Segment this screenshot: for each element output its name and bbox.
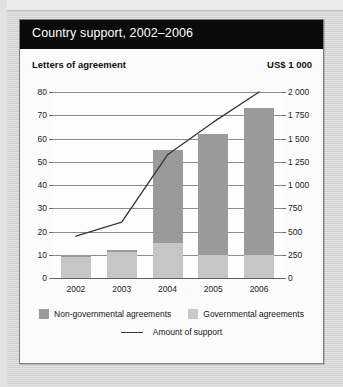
y-axis-tick-left-80: 80: [38, 88, 47, 97]
y-axis-tick-right-1500: 1 500: [288, 135, 309, 144]
left-axis-caption: Letters of agreement: [32, 59, 126, 70]
page-title: Country support, 2002–2006: [32, 26, 193, 40]
page-top-edge: [0, 0, 343, 11]
x-axis-label-2002: 2002: [53, 284, 99, 294]
y-axis-tick-right-1250: 1 250: [288, 158, 309, 167]
y-axis-tick-left-0: 0: [42, 274, 47, 283]
y-axis-tick-left-60: 60: [38, 135, 47, 144]
legend-label-governmental: Governmental agreements: [203, 309, 304, 319]
y-axis-tick-left-70: 70: [38, 111, 47, 120]
y-axis-tick-right-500: 500: [288, 228, 302, 237]
x-axis-label-2003: 2003: [99, 284, 145, 294]
legend-row-swatches: Non-governmental agreements Governmental…: [20, 309, 323, 319]
legend-line-icon: [121, 332, 143, 333]
tick-stub-right-20: [282, 232, 286, 233]
tick-stub-right-70: [282, 115, 286, 116]
y-axis-tick-right-1000: 1 000: [288, 181, 309, 190]
legend-row-line: Amount of support: [20, 327, 323, 337]
legend-item-governmental: Governmental agreements: [188, 309, 304, 319]
x-axis-label-2005: 2005: [190, 284, 236, 294]
line-series-amount-of-support: [53, 92, 282, 278]
x-axis-label-2004: 2004: [145, 284, 191, 294]
page-left-edge: [0, 0, 7, 387]
y-axis-tick-right-2000: 2 000: [288, 88, 309, 97]
right-axis-caption: US$ 1 000: [267, 59, 312, 70]
chart-title-bar: Country support, 2002–2006: [20, 20, 323, 49]
tick-stub-left-0: [49, 278, 53, 279]
legend-swatch-governmental: [188, 309, 198, 319]
x-axis-label-2006: 2006: [236, 284, 282, 294]
y-axis-tick-right-750: 750: [288, 204, 302, 213]
y-axis-tick-left-20: 20: [38, 228, 47, 237]
legend-label-amount-of-support: Amount of support: [153, 327, 222, 337]
y-axis-tick-left-50: 50: [38, 158, 47, 167]
tick-stub-right-40: [282, 185, 286, 186]
y-axis-tick-left-40: 40: [38, 181, 47, 190]
legend-swatch-nongovernmental: [39, 309, 49, 319]
tick-stub-right-50: [282, 162, 286, 163]
tick-stub-right-30: [282, 208, 286, 209]
gridline-0: [53, 278, 282, 279]
tick-stub-right-10: [282, 255, 286, 256]
legend-label-nongovernmental: Non-governmental agreements: [54, 309, 171, 319]
y-axis-tick-right-1750: 1 750: [288, 111, 309, 120]
chart-figure: Country support, 2002–2006 Letters of ag…: [19, 19, 324, 364]
tick-stub-right-0: [282, 278, 286, 279]
legend-item-amount-of-support: Amount of support: [121, 327, 222, 337]
legend-item-nongovernmental: Non-governmental agreements: [39, 309, 171, 319]
y-axis-tick-right-250: 250: [288, 251, 302, 260]
y-axis-tick-left-10: 10: [38, 251, 47, 260]
y-axis-tick-right-0: 0: [288, 274, 293, 283]
plot-area: 00102502050030750401 000501 250601 50070…: [53, 92, 282, 278]
tick-stub-right-80: [282, 92, 286, 93]
tick-stub-right-60: [282, 139, 286, 140]
y-axis-tick-left-30: 30: [38, 204, 47, 213]
